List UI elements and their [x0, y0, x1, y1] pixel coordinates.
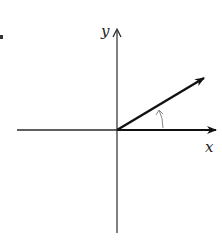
- vector: [117, 78, 204, 130]
- x-axis-label: x: [205, 140, 213, 155]
- angle-arc-arrowhead-icon: [156, 110, 163, 115]
- coordinate-diagram: [0, 0, 222, 247]
- y-axis-label: y: [101, 24, 109, 39]
